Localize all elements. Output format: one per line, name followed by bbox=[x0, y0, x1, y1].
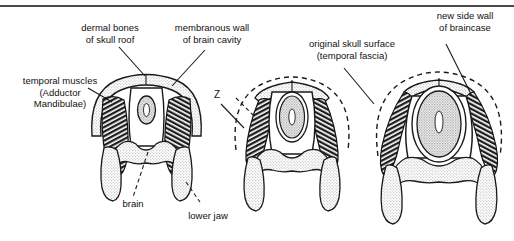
figure-container: dermal bones of skull roof membranous wa… bbox=[0, 0, 514, 241]
leader-membranous-wall bbox=[172, 50, 205, 86]
panel-stage-3 bbox=[377, 72, 502, 224]
brain-cavity-center-2 bbox=[289, 109, 295, 125]
lower-jaw-right-2 bbox=[320, 157, 340, 211]
label-new-side-wall-of-braincase: new side wall of braincase bbox=[420, 10, 510, 33]
panel-stage-2 bbox=[235, 77, 349, 211]
lower-jaw-left-2 bbox=[244, 157, 264, 211]
leader-z-a bbox=[221, 104, 244, 128]
lower-jaw-left-1 bbox=[101, 147, 121, 201]
label-lower-jaw: lower jaw bbox=[170, 210, 246, 222]
label-temporal-muscles: temporal muscles (Adductor Mandibulae) bbox=[6, 75, 114, 110]
label-brain: brain bbox=[103, 198, 163, 210]
label-dermal-bones-of-skull-roof: dermal bones of skull roof bbox=[60, 22, 160, 45]
lower-jaw-right-1 bbox=[172, 147, 192, 201]
leader-dermal-bones bbox=[119, 47, 145, 76]
leader-original-skull-surface bbox=[344, 68, 374, 104]
label-z-marker: Z bbox=[214, 89, 220, 100]
leader-z-b bbox=[236, 98, 256, 118]
lower-jaw-right-3 bbox=[476, 165, 497, 224]
label-original-skull-surface: original skull surface (temporal fascia) bbox=[290, 38, 414, 61]
brain-cavity-center-1 bbox=[144, 104, 150, 117]
brain-cavity-center-3 bbox=[435, 111, 443, 133]
lower-jaw-left-3 bbox=[381, 165, 402, 224]
label-membranous-wall-of-brain-cavity: membranous wall of brain cavity bbox=[157, 22, 267, 45]
